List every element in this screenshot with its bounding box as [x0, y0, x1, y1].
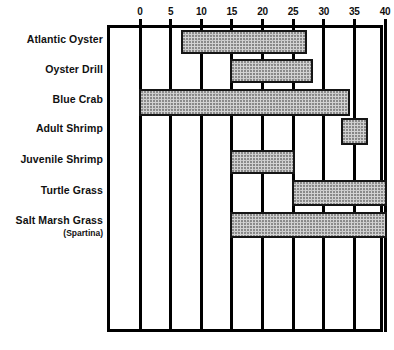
tick-label-30: 30 — [318, 6, 329, 17]
gridline-5 — [169, 25, 172, 332]
tick-label-40: 40 — [380, 6, 391, 17]
gridline-40 — [384, 25, 387, 332]
bar-oyster-drill — [230, 59, 313, 83]
category-axis-labels: Atlantic OysterOyster DrillBlue CrabAdul… — [0, 0, 103, 350]
tick-label-35: 35 — [349, 6, 360, 17]
category-label-text: Atlantic Oyster — [27, 33, 103, 45]
plot-area: 0510152025303540 — [107, 25, 383, 332]
gridline-30 — [322, 25, 325, 332]
top-axis-line — [107, 25, 383, 28]
tick-label-10: 10 — [196, 6, 207, 17]
tick-40 — [384, 19, 387, 28]
tick-label-20: 20 — [257, 6, 268, 17]
tick-label-15: 15 — [227, 6, 238, 17]
category-label-6: Salt Marsh Grass(Spartina) — [0, 214, 103, 239]
category-label-5: Turtle Grass — [0, 184, 103, 196]
gridline-0 — [139, 25, 142, 332]
category-label-text: Salt Marsh Grass — [16, 214, 103, 226]
tick-label-25: 25 — [288, 6, 299, 17]
tick-label-0: 0 — [137, 6, 142, 17]
category-label-1: Oyster Drill — [0, 63, 103, 75]
category-label-0: Atlantic Oyster — [0, 33, 103, 45]
chart-figure: Atlantic OysterOyster DrillBlue CrabAdul… — [0, 0, 394, 350]
category-label-2: Blue Crab — [0, 93, 103, 105]
gridline-35 — [353, 25, 356, 332]
gridline-10 — [200, 25, 203, 332]
category-label-4: Juvenile Shrimp — [0, 153, 103, 165]
category-label-subtext: (Spartina) — [0, 227, 103, 239]
category-label-text: Blue Crab — [53, 93, 104, 105]
bar-adult-shrimp — [341, 118, 369, 145]
category-label-3: Adult Shrimp — [0, 122, 103, 134]
bar-salt-marsh-grass — [230, 212, 386, 238]
category-label-text: Adult Shrimp — [36, 122, 103, 134]
bar-atlantic-oyster — [181, 30, 307, 54]
bar-turtle-grass — [292, 180, 387, 206]
bar-blue-crab — [139, 89, 350, 116]
category-label-text: Oyster Drill — [45, 63, 103, 75]
category-label-text: Juvenile Shrimp — [20, 153, 103, 165]
bar-juvenile-shrimp — [230, 150, 294, 174]
tick-label-5: 5 — [168, 6, 173, 17]
category-label-text: Turtle Grass — [41, 184, 103, 196]
